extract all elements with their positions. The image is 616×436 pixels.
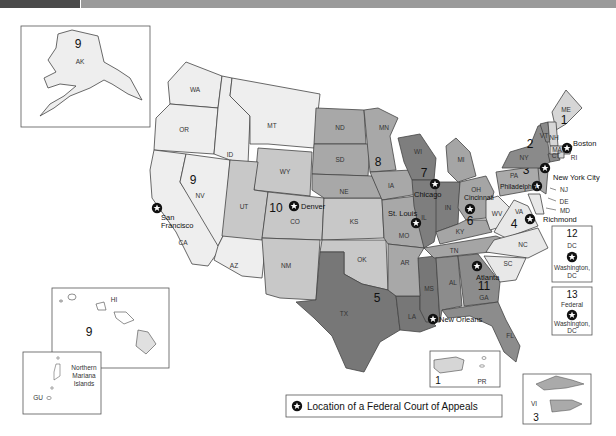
new-orleans-star-icon	[428, 314, 438, 324]
state-label: TX	[340, 310, 349, 317]
city-label: Atlanta	[476, 273, 500, 282]
box-code: DC	[567, 242, 577, 249]
state-label: NE	[339, 188, 349, 195]
state-label: OR	[179, 126, 189, 133]
state-label: NJ	[560, 186, 568, 193]
legend-text: Location of a Federal Court of Appeals	[307, 401, 478, 412]
state-label: CT	[552, 152, 561, 159]
state-label: VA	[515, 208, 524, 215]
san-francisco-star-icon	[152, 203, 162, 213]
city-label: New Orleans	[439, 315, 483, 324]
legend: Location of a Federal Court of Appeals	[286, 395, 502, 417]
state-label: MI	[457, 156, 464, 163]
circuit-number: 5	[374, 291, 381, 305]
federal-circuit-box: 13 Federal Washington, DC	[552, 287, 592, 335]
circuit-number: 1	[561, 113, 568, 127]
city-label: New York City	[553, 173, 600, 182]
circuit-number: 7	[421, 166, 428, 180]
virgin-islands-inset: VI 3	[523, 374, 591, 424]
state-label: MT	[267, 122, 276, 129]
circuit-number: 12	[566, 228, 578, 239]
state-label: PR	[477, 378, 486, 385]
city-label: St. Louis	[388, 209, 417, 218]
state-label: IA	[388, 182, 395, 189]
state-label: WA	[190, 86, 201, 93]
denver-star-icon	[289, 201, 299, 211]
state-label: FL	[506, 332, 514, 339]
territory-label: Mariana	[72, 372, 96, 379]
atlanta-star-icon	[472, 261, 482, 271]
puerto-rico-inset: 1 PR	[430, 351, 500, 387]
dc-circuit-box: 12 DC Washington, DC	[552, 226, 592, 282]
state-label: GA	[479, 294, 489, 301]
state-label: MO	[399, 232, 409, 239]
circuit-number: 9	[86, 325, 93, 339]
state-label: AR	[400, 259, 409, 266]
state-label: MD	[560, 207, 570, 214]
state-label: NC	[518, 241, 528, 248]
circuit-number: 2	[527, 137, 534, 151]
territory-label: Northern	[71, 364, 97, 371]
state-label: NV	[195, 192, 205, 199]
territory-label: Islands	[74, 380, 95, 387]
circuit-number: 10	[269, 201, 283, 215]
state-label: UT	[240, 203, 249, 210]
state-label: NM	[281, 262, 291, 269]
state-label: OK	[357, 256, 367, 263]
state-label: AZ	[230, 262, 238, 269]
city-label: Francisco	[161, 221, 194, 230]
city-label: Boston	[573, 139, 596, 148]
state-label: ID	[227, 151, 234, 158]
state-label: LA	[408, 313, 417, 320]
state-label: NH	[549, 134, 559, 141]
state-label: MN	[379, 124, 389, 131]
state-label: NY	[519, 154, 529, 161]
state-label: KS	[350, 218, 359, 225]
circuit-number: 13	[566, 289, 578, 300]
dc-star-icon	[567, 252, 577, 262]
alaska-inset: 9 AK	[21, 26, 150, 127]
box-code: Federal	[561, 301, 584, 308]
circuit-number: 1	[435, 375, 441, 386]
state-label: ND	[335, 124, 345, 131]
state-label: OH	[471, 186, 481, 193]
state-label: WY	[280, 168, 291, 175]
city-label: Philadelphia	[500, 183, 537, 191]
boston-star-icon	[562, 143, 572, 153]
chicago-star-icon	[430, 179, 440, 189]
state-label: GU	[33, 394, 43, 401]
new-york-star-icon	[540, 163, 550, 173]
state-label: CO	[290, 218, 300, 225]
circuit-number: 3	[533, 412, 539, 423]
state-label: VT	[540, 132, 548, 139]
state-label: TN	[450, 247, 459, 254]
federal-star-icon	[567, 310, 577, 320]
circuit-map: 9 AK WA OR CA NV ID MT AZ 9 WY UT CO KS …	[0, 0, 616, 436]
state-label: WV	[492, 210, 503, 217]
circuit-number: 6	[467, 214, 474, 228]
circuit-number: 9	[75, 37, 82, 51]
circuit-number: 9	[190, 173, 197, 187]
state-label: WI	[414, 148, 422, 155]
state-label: PA	[510, 172, 519, 179]
box-city: DC	[567, 272, 577, 279]
state-label: SD	[335, 156, 344, 163]
state-label: ME	[561, 106, 571, 113]
state-label: DE	[559, 198, 569, 205]
cincinnati-star-icon	[465, 204, 475, 214]
state-label: SC	[503, 260, 512, 267]
state-label: RI	[571, 154, 578, 161]
city-label: Chicago	[414, 190, 442, 199]
state-label: MS	[424, 285, 434, 292]
state-label: VI	[531, 400, 537, 407]
circuit-number: 8	[375, 155, 382, 169]
state-label: KY	[456, 228, 465, 235]
state-label: HI	[111, 296, 118, 303]
state-label: CA	[178, 239, 188, 246]
star-in-circle-icon	[292, 401, 302, 411]
state-label: AL	[449, 279, 457, 286]
city-label: Denver	[301, 202, 326, 211]
box-city: DC	[567, 327, 577, 334]
state-label: IL	[421, 214, 427, 221]
circuit-number: 4	[511, 217, 518, 231]
